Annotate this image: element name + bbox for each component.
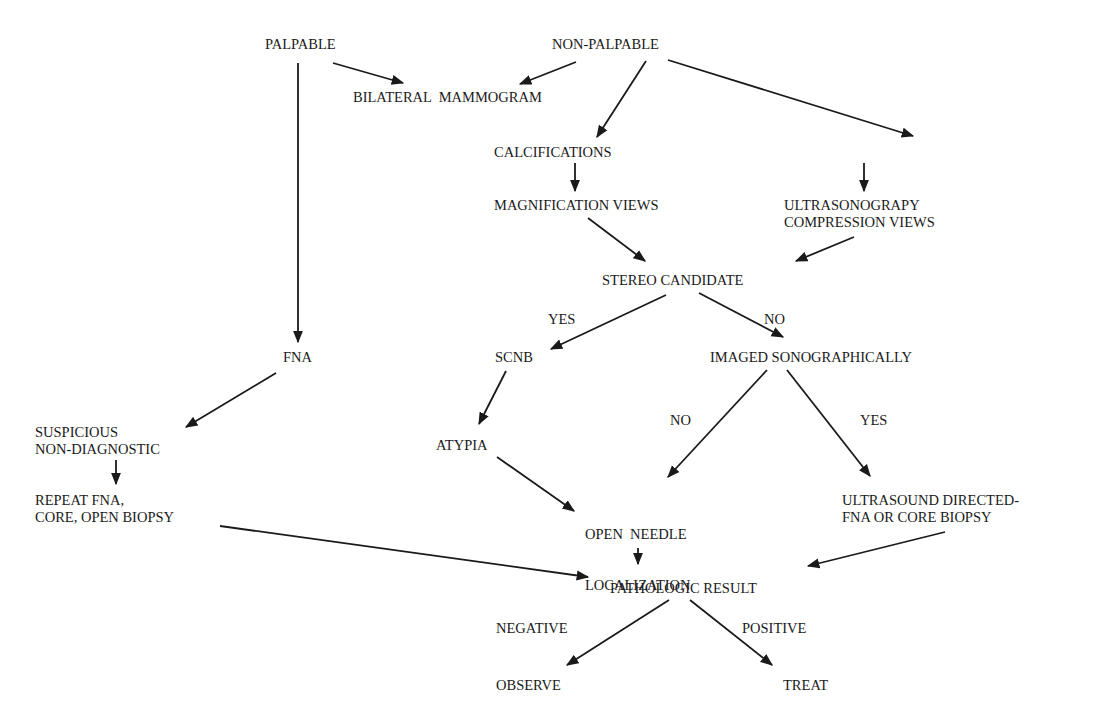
edge-label-stereo-yes: YES (548, 311, 575, 328)
node-fna: FNA (283, 349, 312, 366)
node-scnb: SCNB (495, 349, 533, 366)
node-magnification-views: MAGNIFICATION VIEWS (494, 197, 658, 214)
node-ultrasonography-line2: COMPRESSION VIEWS (784, 214, 935, 231)
edge-repeat-to-pathologic (220, 526, 588, 577)
edge-nonpalpable-to-mammogram (520, 62, 576, 84)
edge-label-stereo-no: NO (764, 311, 785, 328)
edge-atypia-to-openneedle (497, 457, 574, 511)
node-non-palpable: NON-PALPABLE (552, 36, 659, 53)
node-atypia: ATYPIA (436, 437, 488, 454)
edge-palpable-to-mammogram (333, 63, 403, 83)
node-bilateral-mammogram: BILATERAL MAMMOGRAM (353, 89, 542, 106)
node-calcifications: CALCIFICATIONS (494, 144, 612, 161)
edge-layer (0, 0, 1099, 713)
edge-ultrasonography-to-stereo (796, 237, 854, 261)
edge-nonpalpable-to-calcifications (597, 61, 646, 137)
node-suspicious-line2: NON-DIAGNOSTIC (35, 441, 160, 458)
edge-nonpalpable-to-architectual (668, 60, 913, 136)
node-open-needle-line1: OPEN NEEDLE (585, 526, 691, 543)
node-observe: OBSERVE (496, 677, 561, 694)
flowchart-canvas: PALPABLE NON-PALPABLE BILATERAL MAMMOGRA… (0, 0, 1099, 713)
node-us-directed-line2: FNA OR CORE BIOPSY (842, 509, 1019, 526)
node-us-directed-line1: ULTRASOUND DIRECTED- (842, 492, 1019, 509)
node-repeat-line2: CORE, OPEN BIOPSY (35, 509, 174, 526)
node-repeat-line1: REPEAT FNA, (35, 492, 174, 509)
edge-imaged-to-usdirected (787, 370, 870, 476)
edge-label-negative: NEGATIVE (496, 620, 568, 637)
node-ultrasonography-line1: ULTRASONOGRAPY (784, 197, 935, 214)
edge-label-imaged-yes: YES (860, 412, 887, 429)
node-pathologic-result: PATHOLOGIC RESULT (610, 580, 757, 597)
node-ultrasound-directed: ULTRASOUND DIRECTED- FNA OR CORE BIOPSY (842, 492, 1019, 526)
node-stereo-candidate: STEREO CANDIDATE (602, 272, 743, 289)
edge-scnb-to-atypia (479, 371, 506, 424)
node-treat: TREAT (783, 677, 828, 694)
node-palpable: PALPABLE (265, 36, 336, 53)
edge-label-imaged-no: NO (670, 412, 691, 429)
edge-fna-to-suspicious (186, 373, 276, 427)
node-open-needle-localization: OPEN NEEDLE LOCALIZATION (585, 492, 691, 628)
node-imaged-sonographically: IMAGED SONOGRAPHICALLY (710, 349, 912, 366)
node-suspicious-non-diagnostic: SUSPICIOUS NON-DIAGNOSTIC (35, 424, 160, 458)
node-repeat-fna: REPEAT FNA, CORE, OPEN BIOPSY (35, 492, 174, 526)
node-ultrasonography-compression: ULTRASONOGRAPY COMPRESSION VIEWS (784, 197, 935, 231)
edge-magnification-to-stereo (588, 218, 645, 261)
edge-usdirected-to-pathologic (808, 532, 945, 566)
edge-label-positive: POSITIVE (742, 620, 806, 637)
node-suspicious-line1: SUSPICIOUS (35, 424, 160, 441)
